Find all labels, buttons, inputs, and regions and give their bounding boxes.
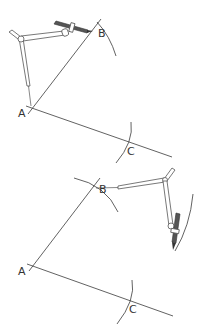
panel-step-2: A B C xyxy=(18,168,193,324)
label-b: B xyxy=(98,27,106,40)
compass-icon xyxy=(96,168,180,250)
panel-step-1: A B C xyxy=(9,19,172,163)
line-ab xyxy=(29,178,100,271)
label-a: A xyxy=(18,265,26,278)
label-a: A xyxy=(18,107,26,120)
label-c: C xyxy=(127,145,135,158)
line-ac xyxy=(26,106,172,157)
arc-c xyxy=(117,280,133,324)
line-ac xyxy=(27,264,173,316)
label-c: C xyxy=(129,303,137,316)
construction-diagram: A B C A B xyxy=(0,0,201,331)
compass-icon xyxy=(9,21,93,106)
label-b: B xyxy=(99,183,107,196)
